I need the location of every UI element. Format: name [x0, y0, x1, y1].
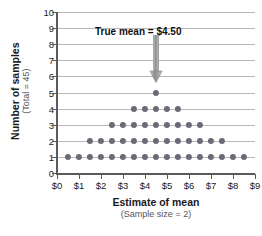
data-dot — [87, 138, 93, 144]
y-axis-title-sub: (Total = 45) — [21, 42, 31, 139]
y-tick-mark — [52, 12, 57, 13]
y-tick-mark — [52, 60, 57, 61]
x-tick-mark — [211, 174, 212, 179]
x-tick-label: $5 — [162, 180, 173, 191]
x-tick-label: $6 — [184, 180, 195, 191]
data-dot — [164, 122, 170, 128]
data-dot — [142, 106, 148, 112]
x-axis-title-main: Estimate of mean — [57, 196, 255, 209]
data-dot — [153, 89, 159, 95]
x-tick-mark — [233, 174, 234, 179]
data-dot — [142, 122, 148, 128]
data-dot — [131, 106, 137, 112]
data-dot — [164, 106, 170, 112]
x-tick-mark — [79, 174, 80, 179]
data-dot — [153, 106, 159, 112]
data-dot — [109, 122, 115, 128]
y-axis-title: Number of samples (Total = 45) — [0, 0, 40, 182]
x-tick-label: $7 — [206, 180, 217, 191]
x-axis-tick-labels: $0$1$2$3$4$5$6$7$8$9 — [0, 180, 262, 194]
data-dot — [164, 154, 170, 160]
x-tick-label: $3 — [118, 180, 129, 191]
y-tick-mark — [52, 109, 57, 110]
data-dot — [131, 138, 137, 144]
y-tick-mark — [52, 44, 57, 45]
x-axis-line — [56, 173, 255, 175]
y-axis-title-main: Number of samples — [9, 42, 21, 139]
dot-plot-chart: Number of samples (Total = 45) 012345678… — [0, 0, 262, 236]
data-dot — [120, 138, 126, 144]
x-axis-title-sub: (Sample size = 2) — [57, 209, 255, 220]
data-dot — [109, 154, 115, 160]
data-dot — [153, 154, 159, 160]
x-tick-label: $2 — [96, 180, 107, 191]
data-dot — [219, 154, 225, 160]
data-dot — [120, 154, 126, 160]
data-dot — [109, 138, 115, 144]
data-dot — [197, 154, 203, 160]
data-dot — [98, 138, 104, 144]
data-dot — [164, 138, 170, 144]
x-tick-label: $4 — [140, 180, 151, 191]
x-tick-mark — [123, 174, 124, 179]
y-tick-mark — [52, 28, 57, 29]
data-dot — [153, 122, 159, 128]
data-dot — [208, 138, 214, 144]
x-tick-label: $0 — [52, 180, 63, 191]
x-tick-label: $1 — [74, 180, 85, 191]
data-dot — [175, 154, 181, 160]
data-dot — [186, 138, 192, 144]
data-dot — [175, 122, 181, 128]
y-tick-mark — [52, 93, 57, 94]
y-tick-mark — [52, 76, 57, 77]
data-dot — [197, 122, 203, 128]
y-tick-mark — [52, 125, 57, 126]
data-dot — [186, 122, 192, 128]
data-dot — [142, 138, 148, 144]
x-axis-title: Estimate of mean (Sample size = 2) — [57, 196, 255, 219]
data-dot — [175, 106, 181, 112]
x-tick-label: $9 — [250, 180, 261, 191]
data-dot — [197, 138, 203, 144]
data-dot — [131, 154, 137, 160]
true-mean-arrow-icon — [149, 35, 163, 83]
x-tick-mark — [189, 174, 190, 179]
y-tick-mark — [52, 141, 57, 142]
data-dot — [241, 154, 247, 160]
data-dot — [230, 154, 236, 160]
x-tick-mark — [167, 174, 168, 179]
data-dot — [142, 154, 148, 160]
data-dot — [98, 154, 104, 160]
gridline — [57, 12, 255, 13]
data-dot — [87, 154, 93, 160]
data-dot — [219, 138, 225, 144]
x-tick-mark — [57, 174, 58, 179]
x-tick-mark — [101, 174, 102, 179]
data-dot — [76, 154, 82, 160]
true-mean-annotation-label: True mean = $4.50 — [95, 26, 181, 37]
data-dot — [120, 122, 126, 128]
data-dot — [208, 154, 214, 160]
data-dot — [153, 138, 159, 144]
data-dot — [175, 138, 181, 144]
data-dot — [131, 122, 137, 128]
data-dot — [65, 154, 71, 160]
x-tick-label: $8 — [228, 180, 239, 191]
x-tick-mark — [255, 174, 256, 179]
data-dot — [186, 154, 192, 160]
x-tick-mark — [145, 174, 146, 179]
y-tick-mark — [52, 157, 57, 158]
